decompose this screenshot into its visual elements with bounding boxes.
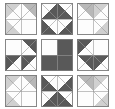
corner-star-point-block-lower bbox=[5, 75, 37, 107]
quilt-unit-solid bbox=[77, 19, 93, 35]
quilt-unit-solid bbox=[41, 39, 57, 55]
star-point-right-block bbox=[77, 39, 109, 71]
quilt-unit-solid bbox=[93, 39, 109, 55]
quilt-unit-solid bbox=[41, 55, 57, 71]
corner-star-point-block-mirrored bbox=[77, 3, 109, 35]
corner-star-point-block-lower-mirrored bbox=[77, 75, 109, 107]
corner-star-point-block bbox=[5, 3, 37, 35]
quilt-unit-solid bbox=[57, 39, 73, 55]
quilt-unit-solid bbox=[21, 91, 37, 107]
star-point-left-block bbox=[5, 39, 37, 71]
quilt-unit-solid bbox=[77, 91, 93, 107]
star-point-down-block bbox=[41, 3, 73, 35]
quilt-figure bbox=[0, 0, 115, 109]
quilt-unit-solid bbox=[21, 19, 37, 35]
star-point-up-block bbox=[41, 75, 73, 107]
quilt-unit-solid bbox=[5, 39, 21, 55]
quilt-unit-solid bbox=[57, 55, 73, 71]
quilt-grid bbox=[0, 0, 115, 109]
center-cross-block bbox=[41, 39, 73, 71]
